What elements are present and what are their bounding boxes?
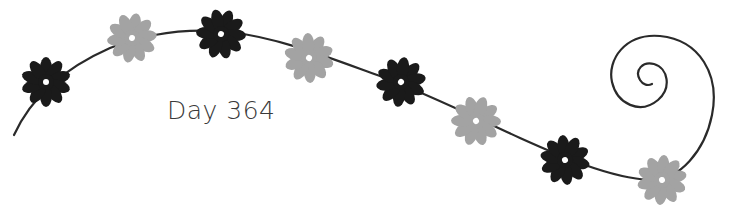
- flower-icon: [20, 57, 71, 107]
- flower-vine-illustration: [0, 0, 730, 211]
- flower-icon: [102, 9, 162, 68]
- flower-icon: [274, 23, 344, 93]
- flowers-group: [20, 1, 692, 210]
- flower-icon: [532, 126, 599, 193]
- decorative-banner: Day 364: [0, 0, 730, 211]
- flower-icon: [441, 86, 511, 157]
- flower-icon: [632, 149, 692, 210]
- flower-icon: [188, 1, 254, 67]
- flower-icon: [365, 46, 437, 118]
- day-caption: Day 364: [167, 96, 276, 125]
